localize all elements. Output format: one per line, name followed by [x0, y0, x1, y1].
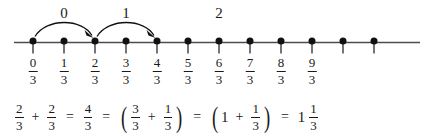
tick-fraction: 73: [245, 56, 256, 86]
tick-fraction: 83: [276, 56, 287, 86]
whole-number-mark-2: 2: [215, 6, 223, 21]
paren-close: ): [264, 105, 270, 130]
fraction-numerator: 5: [183, 56, 194, 71]
equation-fraction: 23: [14, 102, 25, 132]
fraction-denominator: 3: [183, 72, 194, 87]
operator-plus: +: [141, 109, 163, 125]
number-line-dot: [30, 38, 37, 45]
tick-fraction: 33: [121, 56, 132, 86]
equation-fraction-value: 23: [14, 102, 25, 132]
paren-close: ): [176, 105, 182, 130]
fraction-numerator: 2: [46, 102, 57, 117]
fraction-denominator: 3: [152, 72, 163, 87]
number-line-dot: [247, 38, 254, 45]
fraction-numerator: 3: [130, 102, 141, 117]
fraction-denominator: 3: [130, 118, 141, 133]
fraction-denominator: 3: [90, 72, 101, 87]
fraction-numerator: 0: [28, 56, 39, 71]
tick-fraction: 03: [28, 56, 39, 86]
mixed-number-whole: 1: [298, 109, 306, 126]
tick-label-1-over-3: 13: [59, 56, 70, 86]
number-line-dot: [309, 38, 316, 45]
jump-arc: [35, 23, 92, 37]
fraction-numerator: 3: [121, 56, 132, 71]
operator-equals: =: [184, 109, 210, 125]
fraction-numerator: 4: [152, 56, 163, 71]
fraction-numerator: 9: [307, 56, 318, 71]
equation-fraction-value: 23: [46, 102, 57, 132]
tick-fraction: 93: [307, 56, 318, 86]
fraction-denominator: 3: [28, 72, 39, 87]
equation-row: 23+23=43=(33+13)=(1+13)=113: [14, 98, 319, 136]
operator-plus: +: [25, 109, 47, 125]
equation-fraction-value: 13: [163, 102, 174, 132]
fraction-numerator: 1: [308, 102, 319, 117]
tick-fraction: 23: [90, 56, 101, 86]
fraction-denominator: 3: [214, 72, 225, 87]
fraction-denominator: 3: [308, 118, 319, 133]
mixed-number-fraction: 13: [308, 102, 319, 132]
number-line-dot: [154, 38, 161, 45]
number-line-dot: [123, 38, 130, 45]
number-line-dot: [185, 38, 192, 45]
number-line-jump-arcs: [35, 23, 156, 39]
number-line-dot: [278, 38, 285, 45]
fraction-denominator: 3: [121, 72, 132, 87]
number-line-dot: [340, 38, 347, 45]
number-line-dot: [371, 38, 378, 45]
jump-label-1: 1: [122, 6, 130, 21]
tick-label-3-over-3: 33: [121, 56, 132, 86]
fraction-denominator: 3: [83, 118, 94, 133]
fraction-number-line-figure: 012 03132333435363738393 23+23=43=(33+13…: [0, 0, 426, 137]
fraction-numerator: 8: [276, 56, 287, 71]
equation-mixed-number: 113: [298, 102, 319, 132]
tick-label-9-over-3: 93: [307, 56, 318, 86]
tick-label-2-over-3: 23: [90, 56, 101, 86]
fraction-numerator: 2: [14, 102, 25, 117]
tick-fraction: 53: [183, 56, 194, 86]
jump-label-0: 0: [60, 6, 68, 21]
operator-plus: +: [229, 109, 251, 125]
fraction-denominator: 3: [14, 118, 25, 133]
tick-label-0-over-3: 03: [28, 56, 39, 86]
fraction-denominator: 3: [163, 118, 174, 133]
fraction-numerator: 4: [83, 102, 94, 117]
fraction-denominator: 3: [276, 72, 287, 87]
tick-label-6-over-3: 63: [214, 56, 225, 86]
equation-parenthesised-group: (33+13): [119, 102, 184, 132]
number-line-dot: [61, 38, 68, 45]
tick-label-8-over-3: 83: [276, 56, 287, 86]
equation-whole-number: 1: [221, 109, 229, 126]
fraction-denominator: 3: [307, 72, 318, 87]
fraction-denominator: 3: [250, 118, 261, 133]
number-line-dot: [92, 38, 99, 45]
fraction-denominator: 3: [46, 118, 57, 133]
fraction-numerator: 7: [245, 56, 256, 71]
jump-arc: [97, 23, 154, 37]
fraction-denominator: 3: [245, 72, 256, 87]
paren-open: (: [121, 105, 127, 130]
equation-fraction-value: 33: [130, 102, 141, 132]
equation-fraction: 13: [250, 102, 261, 132]
fraction-numerator: 2: [90, 56, 101, 71]
fraction-numerator: 1: [163, 102, 174, 117]
tick-fraction: 13: [59, 56, 70, 86]
equation-fraction-value: 13: [250, 102, 261, 132]
fraction-numerator: 6: [214, 56, 225, 71]
equation-parenthesised-group: (1+13): [210, 102, 272, 132]
equation-fraction: 33: [130, 102, 141, 132]
number-line-dots: [30, 38, 378, 45]
tick-label-4-over-3: 43: [152, 56, 163, 86]
fraction-denominator: 3: [59, 72, 70, 87]
paren-open: (: [212, 105, 218, 130]
equation-fraction: 43: [83, 102, 94, 132]
equation-fraction-value: 43: [83, 102, 94, 132]
operator-equals: =: [93, 109, 119, 125]
tick-label-5-over-3: 53: [183, 56, 194, 86]
tick-label-7-over-3: 73: [245, 56, 256, 86]
tick-fraction: 43: [152, 56, 163, 86]
operator-equals: =: [57, 109, 83, 125]
number-line-ticks: [33, 43, 374, 54]
equation-fraction: 13: [163, 102, 174, 132]
tick-fraction: 63: [214, 56, 225, 86]
